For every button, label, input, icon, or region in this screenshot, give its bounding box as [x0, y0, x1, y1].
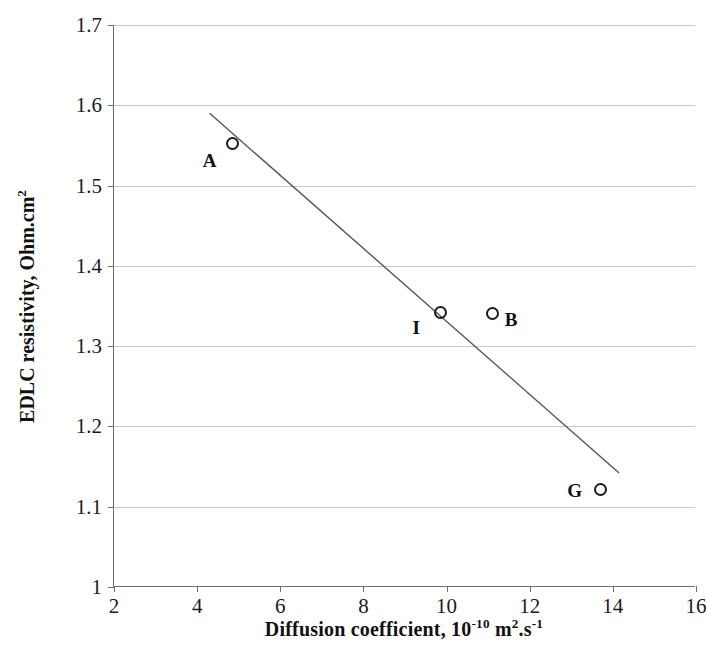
- x-axis-title-text: Diffusion coefficient, 10: [265, 618, 472, 640]
- x-tick-label: 6: [275, 594, 286, 619]
- y-tick-label: 1: [92, 575, 103, 600]
- y-tick-label: 1.2: [76, 414, 102, 439]
- x-tick-label: 16: [686, 594, 706, 619]
- x-tick-mark: [696, 586, 697, 592]
- plot-area: 11.11.21.31.41.51.61.7 246810121416 AIBG: [113, 25, 695, 587]
- chart-figure: EDLC resistivity, Ohm.cm2 11.11.21.31.41…: [0, 0, 706, 662]
- y-axis-title-text: EDLC resistivity, Ohm.cm: [16, 196, 38, 422]
- y-tick-label: 1.7: [76, 13, 102, 38]
- x-tick-label: 8: [358, 594, 369, 619]
- x-axis-title: Diffusion coefficient, 10-10 m2.s-1: [113, 618, 695, 641]
- x-tick-label: 2: [109, 594, 120, 619]
- trendline: [114, 25, 696, 587]
- x-axis-title-exponent-1: -10: [472, 616, 490, 631]
- x-axis-title-exponent-2: 2: [512, 616, 519, 631]
- x-tick-label: 12: [519, 594, 540, 619]
- x-tick-label: 14: [602, 594, 623, 619]
- x-tick-label: 10: [436, 594, 457, 619]
- x-tick-label: 4: [192, 594, 203, 619]
- trendline-segment: [210, 113, 619, 473]
- x-axis-title-tail: .s: [519, 618, 532, 640]
- y-tick-label: 1.6: [76, 93, 102, 118]
- y-tick-label: 1.4: [76, 253, 102, 278]
- x-axis-title-exponent-3: -1: [532, 616, 543, 631]
- y-tick-label: 1.3: [76, 334, 102, 359]
- y-tick-label: 1.5: [76, 173, 102, 198]
- x-axis-title-mid: m: [490, 618, 512, 640]
- y-axis-title: EDLC resistivity, Ohm.cm2: [10, 25, 44, 587]
- y-axis-title-exponent: 2: [14, 190, 29, 197]
- y-tick-label: 1.1: [76, 494, 102, 519]
